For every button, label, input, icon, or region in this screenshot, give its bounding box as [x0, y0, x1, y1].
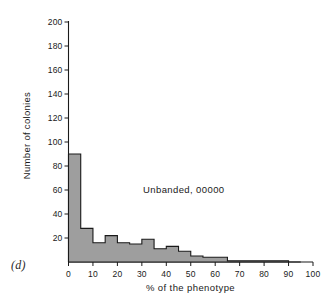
y-tick-label: 100 [37, 137, 63, 147]
x-tick-label: 70 [227, 269, 253, 279]
figure-panel: (d) Number of colonies % of the phenotyp… [0, 0, 330, 301]
x-tick-label: 60 [202, 269, 228, 279]
y-tick-label: 120 [37, 113, 63, 123]
x-tick-label: 50 [178, 269, 204, 279]
x-tick-label: 90 [276, 269, 302, 279]
x-tick-label: 0 [56, 269, 82, 279]
y-tick-label: 80 [37, 161, 63, 171]
y-tick-label: 40 [37, 209, 63, 219]
histogram-bars [69, 154, 301, 262]
x-tick-label: 100 [300, 269, 326, 279]
x-tick-label: 10 [80, 269, 106, 279]
x-tick-label: 80 [251, 269, 277, 279]
y-tick-label: 180 [37, 41, 63, 51]
histogram-silhouette [69, 154, 301, 262]
y-tick-label: 20 [37, 233, 63, 243]
x-tick-label: 20 [104, 269, 130, 279]
x-tick-label: 30 [129, 269, 155, 279]
x-tick-label: 40 [153, 269, 179, 279]
y-tick-label: 60 [37, 185, 63, 195]
y-tick-label: 160 [37, 65, 63, 75]
y-tick-label: 200 [37, 17, 63, 27]
y-tick-label: 140 [37, 89, 63, 99]
axes [65, 21, 314, 266]
